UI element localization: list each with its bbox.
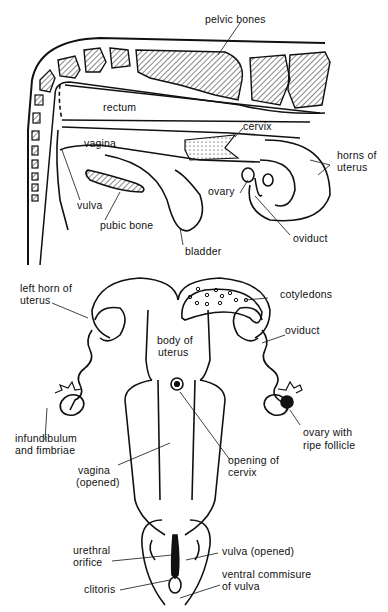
label-clitoris: clitoris [84, 584, 115, 595]
label-pubic-bone: pubic bone [100, 220, 153, 231]
label-vagina-opened-line1: vagina [78, 465, 110, 476]
label-urethral-orifice-line2: orifice [73, 557, 102, 568]
label-rectum: rectum [103, 102, 136, 113]
cotyledons [188, 287, 247, 305]
label-opening-of-cervix-line1: opening of [228, 455, 279, 466]
label-body-of-uterus-line1: body of [157, 335, 193, 346]
label-horns-of-uterus-line1: horns of [337, 150, 377, 161]
label-ovary-follicle-line2: ripe follicle [303, 440, 355, 451]
label-cotyledons: cotyledons [280, 289, 332, 300]
label-urethral-orifice-line1: urethral [73, 545, 110, 556]
label-bladder: bladder [185, 246, 221, 257]
label-left-horn-line1: left horn of [20, 283, 72, 294]
label-ovary: ovary [208, 186, 235, 197]
label-body-of-uterus-line2: uterus [158, 347, 188, 358]
label-ventral-commisure-line2: of vulva [222, 581, 260, 592]
anatomy-diagram [0, 0, 388, 612]
label-horns-of-uterus-line2: uterus [337, 162, 367, 173]
coccygeal-vertebrae [32, 95, 43, 201]
label-vulva: vulva [77, 200, 103, 211]
top-panel [28, 23, 330, 265]
label-vulva-opened: vulva (opened) [222, 546, 294, 557]
label-oviduct-top: oviduct [293, 233, 328, 244]
label-opening-of-cervix-line2: cervix [228, 467, 257, 478]
label-oviduct-bottom: oviduct [285, 325, 320, 336]
label-infundibulum-line2: and fimbriae [15, 445, 75, 456]
label-ventral-commisure-line1: ventral commisure [222, 569, 311, 580]
clitoris [169, 577, 181, 593]
pelvic-bones [40, 48, 330, 108]
ripe-follicle [281, 396, 293, 408]
label-pelvic-bones: pelvic bones [205, 14, 266, 25]
label-infundibulum-line1: infundibulum [15, 433, 77, 444]
pubic-bone [86, 170, 144, 192]
label-ovary-follicle-line1: ovary with [303, 427, 352, 438]
urethral-orifice [172, 535, 179, 578]
label-vagina-opened-line2: (opened) [76, 477, 120, 488]
label-left-horn-line2: uterus [20, 295, 50, 306]
label-vagina: vagina [84, 138, 116, 149]
label-cervix: cervix [243, 121, 272, 132]
